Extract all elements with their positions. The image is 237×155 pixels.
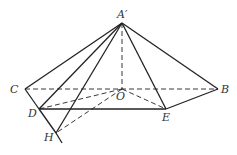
hidden-edges <box>25 23 218 133</box>
label-B: B <box>220 83 229 96</box>
segment-Ap-D <box>39 23 122 109</box>
segment-O-E <box>122 89 166 109</box>
segment-Ap-H <box>56 23 122 133</box>
label-C: C <box>10 83 19 96</box>
label-D: D <box>27 107 37 120</box>
pyramid-figure: A′CBODEH <box>0 0 237 155</box>
geometry-diagram: A′CBODEH <box>0 0 237 155</box>
segment-Ap-E <box>122 23 166 109</box>
label-Ap: A′ <box>116 8 128 21</box>
segment-Ap-C <box>25 23 122 89</box>
label-E: E <box>161 111 170 124</box>
segment-D-H <box>39 109 56 133</box>
segment-H-Hext <box>56 133 62 143</box>
segment-O-H <box>56 89 122 133</box>
label-O: O <box>116 90 125 103</box>
segment-Ap-B <box>122 23 218 89</box>
vertex-labels: A′CBODEH <box>10 8 229 144</box>
segment-E-B <box>166 89 218 109</box>
segment-C-D <box>25 89 39 109</box>
visible-edges <box>25 23 218 143</box>
label-H: H <box>43 131 54 144</box>
